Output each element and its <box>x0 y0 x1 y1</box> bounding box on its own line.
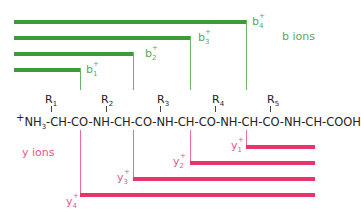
y1-bar <box>246 145 315 149</box>
side-chain-r5: R5 <box>267 93 279 106</box>
side-chain-r3: R3 <box>157 93 169 106</box>
b1-label: b1+ <box>86 64 97 77</box>
b4-cleavage-line <box>246 20 247 90</box>
side-chain-r2: R2 <box>101 93 113 106</box>
b1-bar <box>14 68 81 72</box>
y3-bar <box>133 177 315 181</box>
y1-label: y1+ <box>231 140 242 153</box>
b4-label: b4+ <box>252 16 263 29</box>
b4-bar <box>14 20 247 24</box>
b2-label: b2+ <box>145 48 156 61</box>
b1-cleavage-line <box>80 68 81 90</box>
b2-cleavage-line <box>133 52 134 90</box>
side-chain-r1: R1 <box>45 93 57 106</box>
bond-r4 <box>215 106 216 112</box>
y4-bar <box>80 193 315 197</box>
y-ions-heading: y ions <box>22 147 55 158</box>
b2-bar <box>14 52 134 56</box>
y4-label: y4+ <box>66 196 77 209</box>
n-terminal-charge: + <box>16 112 24 123</box>
y4-cleavage-line <box>80 130 81 197</box>
b3-cleavage-line <box>190 36 191 90</box>
b3-bar <box>14 36 191 40</box>
bond-r1 <box>51 106 52 112</box>
y2-cleavage-line <box>190 130 191 165</box>
y3-cleavage-line <box>133 130 134 181</box>
y2-label: y2+ <box>173 156 184 169</box>
peptide-sequence: +NH3-CH-CO-NH-CH-CO-NH-CH-CO-NH-CH-CO-NH… <box>16 115 361 129</box>
bond-r3 <box>160 106 161 112</box>
y3-label: y3+ <box>117 172 128 185</box>
y2-bar <box>190 161 315 165</box>
side-chain-r4: R4 <box>212 93 224 106</box>
bond-r5 <box>270 106 271 112</box>
b-ions-heading: b ions <box>282 31 315 42</box>
bond-r2 <box>106 106 107 112</box>
b3-label: b3+ <box>198 32 209 45</box>
